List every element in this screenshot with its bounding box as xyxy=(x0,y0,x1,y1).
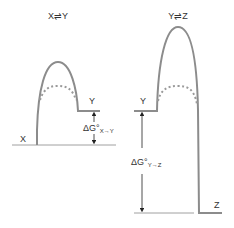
left-panel: X⇌Y X Y ΔG°X→Y xyxy=(12,11,116,145)
right-delta-symbol: ΔG° xyxy=(131,157,148,167)
right-delta-label: ΔG°Y→Z xyxy=(131,157,162,168)
right-end-label: Z xyxy=(214,200,220,210)
left-delta-subscript: X→Y xyxy=(100,128,114,134)
left-panel-title: X⇌Y xyxy=(48,11,68,21)
right-uncatalyzed-curve xyxy=(134,27,222,213)
energy-diagram: X⇌Y X Y ΔG°X→Y Y⇌Z Y Z ΔG°Y→Z xyxy=(0,0,234,228)
right-panel: Y⇌Z Y Z ΔG°Y→Z xyxy=(131,11,222,213)
left-end-label: Y xyxy=(89,96,95,106)
right-delta-subscript: Y→Z xyxy=(148,162,162,168)
left-delta-label: ΔG°X→Y xyxy=(83,123,114,134)
right-panel-title: Y⇌Z xyxy=(168,11,188,21)
left-delta-symbol: ΔG° xyxy=(83,123,100,133)
right-start-label: Y xyxy=(140,96,146,106)
left-start-label: X xyxy=(20,134,26,144)
right-catalyzed-curve xyxy=(158,86,197,104)
left-catalyzed-curve xyxy=(40,86,76,100)
